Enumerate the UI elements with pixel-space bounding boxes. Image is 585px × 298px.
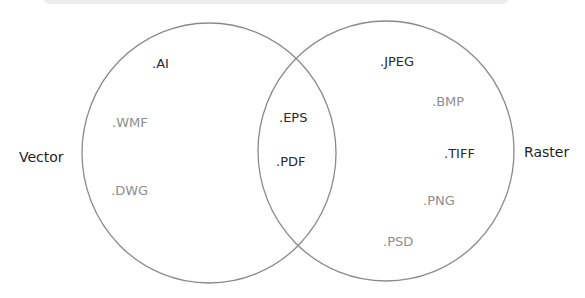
format-tiff: .TIFF [444,147,475,160]
vector-circle [82,23,336,283]
vector-label: Vector [19,150,64,164]
raster-label: Raster [524,145,569,159]
format-bmp: .BMP [432,95,464,108]
format-jpeg: .JPEG [380,55,414,68]
format-psd: .PSD [383,235,413,248]
format-eps: .EPS [279,111,307,124]
format-ai: .AI [152,57,169,70]
format-png: .PNG [423,194,455,207]
format-wmf: .WMF [112,116,148,129]
format-dwg: .DWG [111,184,148,197]
format-pdf: .PDF [276,155,305,168]
venn-diagram [0,0,585,298]
